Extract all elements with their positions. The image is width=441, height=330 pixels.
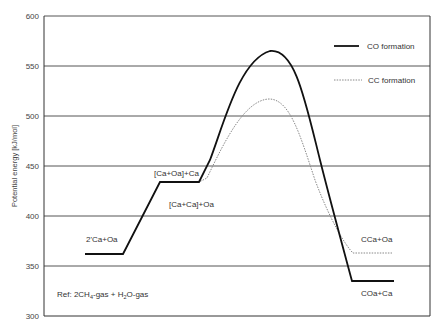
gridlines: [44, 16, 430, 266]
label-co-intermediate: [Ca+Oa]+Ca: [154, 169, 199, 178]
y-tick: 500: [26, 112, 40, 121]
y-tick: 550: [26, 62, 40, 71]
reference-note: Ref: 2CH4-gas + H2O-gas: [57, 290, 148, 300]
y-tick: 450: [26, 162, 40, 171]
energy-diagram: 600 550 500 450 400 350 300 Potential en…: [0, 0, 441, 330]
y-tick: 300: [26, 312, 40, 321]
label-co-final: COa+Ca: [361, 289, 393, 298]
label-cc-intermediate: [Ca+Ca]+Oa: [169, 200, 214, 209]
legend-cc-label: CC formation: [368, 76, 415, 85]
y-tick: 350: [26, 262, 40, 271]
legend-co-label: CO formation: [367, 42, 415, 51]
y-axis-ticks: 600 550 500 450 400 350 300: [26, 12, 40, 321]
y-tick: 400: [26, 212, 40, 221]
label-initial-state: 2'Ca+Oa: [86, 235, 118, 244]
y-axis-label: Potential energy [kJ/mol]: [10, 125, 19, 207]
label-cc-final: CCa+Oa: [361, 235, 393, 244]
legend: CO formation CC formation: [334, 42, 415, 85]
series-cc-formation: [85, 99, 392, 254]
y-tick: 600: [26, 12, 40, 21]
